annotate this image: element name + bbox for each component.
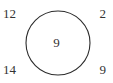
corner-label-bottom-left: 14 <box>3 63 16 76</box>
corner-label-bottom-right: 9 <box>100 63 107 76</box>
corner-label-top-left: 12 <box>3 7 16 20</box>
corner-label-top-right: 2 <box>100 7 107 20</box>
circle-number-diagram: 12 2 14 9 9 <box>0 0 113 83</box>
center-label: 9 <box>0 36 113 49</box>
